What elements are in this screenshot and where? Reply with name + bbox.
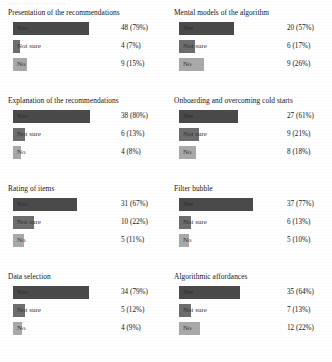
chart-panel: Presentation of the recommendationsYes48… xyxy=(0,8,166,96)
bar-value-label: 8 (18%) xyxy=(287,147,310,158)
bar-row: Not sure4 (7%) xyxy=(8,39,166,57)
bar-value-label: 6 (13%) xyxy=(121,129,144,140)
bar-row: Yes37 (77%) xyxy=(174,197,332,215)
chart-panel: Data selectionYes34 (79%)Not sure5 (12%)… xyxy=(0,272,166,360)
bar-track: Not sure9 (21%) xyxy=(174,127,282,145)
bar-category-label: No xyxy=(17,235,26,246)
bar-track: No5 (10%) xyxy=(174,233,282,251)
scan-artifact-text: ........ ...... ... .... ......... xyxy=(8,0,158,5)
bar-category-label: No xyxy=(183,59,192,70)
bar-category-label: Yes xyxy=(183,199,193,210)
bar-row: Yes48 (79%) xyxy=(8,21,166,39)
bar-category-label: No xyxy=(183,147,192,158)
bar-rows: Yes27 (61%)Not sure9 (21%)No8 (18%) xyxy=(174,109,332,163)
bar-rows: Yes38 (80%)Not sure6 (13%)No4 (8%) xyxy=(8,109,166,163)
bar-category-label: Not sure xyxy=(183,305,207,316)
bar-row: Not sure6 (17%) xyxy=(174,39,332,57)
bar-track: Yes35 (64%) xyxy=(174,285,282,303)
bar-track: Not sure4 (7%) xyxy=(8,39,116,57)
bar-track: No9 (26%) xyxy=(174,57,282,75)
bar-value-label: 5 (10%) xyxy=(287,235,310,246)
bar-value-label: 48 (79%) xyxy=(121,23,148,34)
bar-row: No12 (22%) xyxy=(174,321,332,339)
bar-row: Yes38 (80%) xyxy=(8,109,166,127)
bar-track: No8 (18%) xyxy=(174,145,282,163)
bar-row: No8 (18%) xyxy=(174,145,332,163)
bar-row: Yes35 (64%) xyxy=(174,285,332,303)
bar-category-label: Not sure xyxy=(17,305,41,316)
bar-track: Not sure5 (12%) xyxy=(8,303,116,321)
bar-category-label: Yes xyxy=(183,287,193,298)
bar-rows: Yes34 (79%)Not sure5 (12%)No4 (9%) xyxy=(8,285,166,339)
panel-title: Mental models of the algorithm xyxy=(174,8,332,17)
chart-panel: Filter bubbleYes37 (77%)Not sure6 (13%)N… xyxy=(166,184,332,272)
bar-value-label: 35 (64%) xyxy=(287,287,314,298)
bar-category-label: No xyxy=(17,147,26,158)
bar-track: Not sure6 (17%) xyxy=(174,39,282,57)
bar-rows: Yes35 (64%)Not sure7 (13%)No12 (22%) xyxy=(174,285,332,339)
bar-row: No9 (15%) xyxy=(8,57,166,75)
chart-panel: Onboarding and overcoming cold startsYes… xyxy=(166,96,332,184)
bar-value-label: 38 (80%) xyxy=(121,111,148,122)
bar-value-label: 5 (11%) xyxy=(121,235,144,246)
bar-track: No4 (9%) xyxy=(8,321,116,339)
bar-track: Yes27 (61%) xyxy=(174,109,282,127)
bar-value-label: 4 (7%) xyxy=(121,41,141,52)
bar-value-label: 6 (17%) xyxy=(287,41,310,52)
panel-title: Rating of items xyxy=(8,184,166,193)
bar-category-label: No xyxy=(17,323,26,334)
panel-title: Onboarding and overcoming cold starts xyxy=(174,96,332,105)
bar-row: Not sure6 (13%) xyxy=(174,215,332,233)
panel-title: Algorithmic affordances xyxy=(174,272,332,281)
bar-category-label: Yes xyxy=(17,23,27,34)
bar-value-label: 12 (22%) xyxy=(287,323,314,334)
bar-category-label: Not sure xyxy=(183,129,207,140)
bar-track: Not sure6 (13%) xyxy=(8,127,116,145)
bar-value-label: 5 (12%) xyxy=(121,305,144,316)
bar-row: No5 (11%) xyxy=(8,233,166,251)
bar-rows: Yes37 (77%)Not sure6 (13%)No5 (10%) xyxy=(174,197,332,251)
bar-row: Yes31 (67%) xyxy=(8,197,166,215)
panel-title: Data selection xyxy=(8,272,166,281)
bar-row: Yes34 (79%) xyxy=(8,285,166,303)
bar-track: Yes48 (79%) xyxy=(8,21,116,39)
bar-category-label: Yes xyxy=(183,111,193,122)
chart-panel: Mental models of the algorithmYes20 (57%… xyxy=(166,8,332,96)
panel-title: Presentation of the recommendations xyxy=(8,8,166,17)
bar-value-label: 20 (57%) xyxy=(287,23,314,34)
bar-track: Not sure6 (13%) xyxy=(174,215,282,233)
bar-category-label: Not sure xyxy=(17,129,41,140)
bar-category-label: Yes xyxy=(183,23,193,34)
bar-category-label: Not sure xyxy=(183,217,207,228)
bar-value-label: 4 (9%) xyxy=(121,323,141,334)
bar-track: Yes38 (80%) xyxy=(8,109,116,127)
chart-panel: Explanation of the recommendationsYes38 … xyxy=(0,96,166,184)
bar-value-label: 34 (79%) xyxy=(121,287,148,298)
bar-value-label: 9 (21%) xyxy=(287,129,310,140)
bar-row: Not sure6 (13%) xyxy=(8,127,166,145)
bar-row: Not sure5 (12%) xyxy=(8,303,166,321)
chart-panel: Algorithmic affordancesYes35 (64%)Not su… xyxy=(166,272,332,360)
bar-row: No9 (26%) xyxy=(174,57,332,75)
bar-track: Yes37 (77%) xyxy=(174,197,282,215)
bar-rows: Yes20 (57%)Not sure6 (17%)No9 (26%) xyxy=(174,21,332,75)
bar-row: Yes27 (61%) xyxy=(174,109,332,127)
bar-value-label: 10 (22%) xyxy=(121,217,148,228)
bar-track: No9 (15%) xyxy=(8,57,116,75)
bar-category-label: Yes xyxy=(17,287,27,298)
chart-panel: Rating of itemsYes31 (67%)Not sure10 (22… xyxy=(0,184,166,272)
bar-row: No5 (10%) xyxy=(174,233,332,251)
bar-row: Not sure9 (21%) xyxy=(174,127,332,145)
bar-track: Not sure7 (13%) xyxy=(174,303,282,321)
bar-value-label: 27 (61%) xyxy=(287,111,314,122)
bar-track: No12 (22%) xyxy=(174,321,282,339)
bar-value-label: 9 (26%) xyxy=(287,59,310,70)
bar-value-label: 6 (13%) xyxy=(287,217,310,228)
bar-category-label: Yes xyxy=(17,199,27,210)
bar-track: No5 (11%) xyxy=(8,233,116,251)
bar-track: Not sure10 (22%) xyxy=(8,215,116,233)
bar-row: No4 (9%) xyxy=(8,321,166,339)
bar-category-label: Not sure xyxy=(183,41,207,52)
bar-track: No4 (8%) xyxy=(8,145,116,163)
bar-row: Not sure10 (22%) xyxy=(8,215,166,233)
